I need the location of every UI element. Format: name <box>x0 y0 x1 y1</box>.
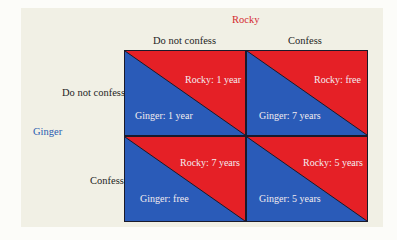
cell-dnc-confess: Rocky: free Ginger: 7 years <box>247 51 367 135</box>
row-player-label: Ginger <box>33 126 62 137</box>
rocky-payoff: Rocky: 7 years <box>180 157 240 168</box>
ginger-payoff: Ginger: 1 year <box>135 110 193 121</box>
rocky-payoff: Rocky: 5 years <box>303 157 363 168</box>
payoff-grid: Rocky: 1 year Ginger: 1 year Rocky: free… <box>124 50 368 222</box>
row-header-do-not-confess: Do not confess <box>62 87 125 98</box>
column-player-label: Rocky <box>232 14 259 25</box>
column-header-do-not-confess: Do not confess <box>153 35 216 46</box>
cell-confess-confess: Rocky: 5 years Ginger: 5 years <box>247 137 367 221</box>
diagonal-split-icon <box>247 137 367 221</box>
ginger-payoff: Ginger: 5 years <box>259 193 321 204</box>
rocky-payoff: Rocky: free <box>314 74 361 85</box>
rocky-payoff: Rocky: 1 year <box>185 74 241 85</box>
diagonal-split-icon <box>125 137 245 221</box>
cell-confess-dnc: Rocky: 7 years Ginger: free <box>125 137 245 221</box>
ginger-payoff: Ginger: free <box>140 193 189 204</box>
row-header-confess: Confess <box>90 175 124 186</box>
column-header-confess: Confess <box>288 35 322 46</box>
ginger-payoff: Ginger: 7 years <box>259 110 321 121</box>
cell-dnc-dnc: Rocky: 1 year Ginger: 1 year <box>125 51 245 135</box>
diagonal-split-icon <box>125 51 245 135</box>
diagonal-split-icon <box>247 51 367 135</box>
